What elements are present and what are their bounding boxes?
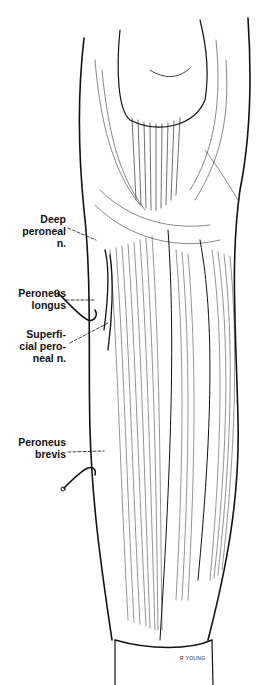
label-line: Deep — [22, 213, 66, 225]
label-peroneus-longus: Peroneus longus — [18, 287, 66, 311]
label-superficial-peroneal-nerve: Superfi- cial pero- neal n. — [19, 328, 66, 364]
label-line: cial pero- — [19, 340, 66, 352]
label-line: Superfi- — [19, 328, 66, 340]
label-line: Peroneus — [18, 287, 66, 299]
label-line: n. — [22, 237, 66, 249]
label-line: peroneal — [22, 225, 66, 237]
label-line: brevis — [18, 448, 66, 460]
label-deep-peroneal-nerve: Deep peroneal n. — [22, 213, 66, 249]
anatomical-illustration: Deep peroneal n. Peroneus longus Superfi… — [0, 0, 266, 685]
label-peroneus-brevis: Peroneus brevis — [18, 436, 66, 460]
label-line: longus — [18, 299, 66, 311]
artist-signature: R YOUNG — [180, 655, 205, 661]
label-line: neal n. — [19, 352, 66, 364]
label-line: Peroneus — [18, 436, 66, 448]
